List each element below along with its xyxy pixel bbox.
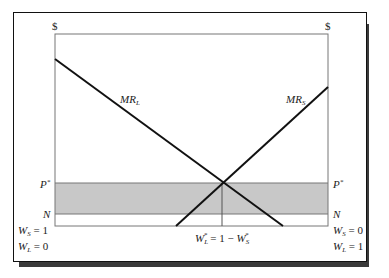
n-label-left: N bbox=[42, 208, 51, 220]
shaded-band bbox=[55, 183, 328, 214]
p-star-label-left: P* bbox=[39, 178, 51, 190]
diagram-canvas: $ $ MRL MRS P* P* N N WS = 1 WL = 0 WS =… bbox=[0, 0, 389, 278]
mr-s-label: MRS bbox=[285, 93, 306, 107]
right-wl-label: WL = 1 bbox=[333, 240, 363, 254]
left-axis-label: $ bbox=[52, 20, 58, 32]
mr-l-label: MRL bbox=[119, 93, 140, 107]
left-wl-label: WL = 0 bbox=[18, 240, 49, 254]
n-label-right: N bbox=[332, 208, 341, 220]
right-axis-label: $ bbox=[325, 20, 331, 32]
left-ws-label: WS = 1 bbox=[18, 224, 48, 238]
equilibrium-label: WL* = 1 − WS* bbox=[195, 231, 250, 246]
p-star-label-right: P* bbox=[332, 178, 344, 190]
right-ws-label: WS = 0 bbox=[333, 224, 363, 238]
